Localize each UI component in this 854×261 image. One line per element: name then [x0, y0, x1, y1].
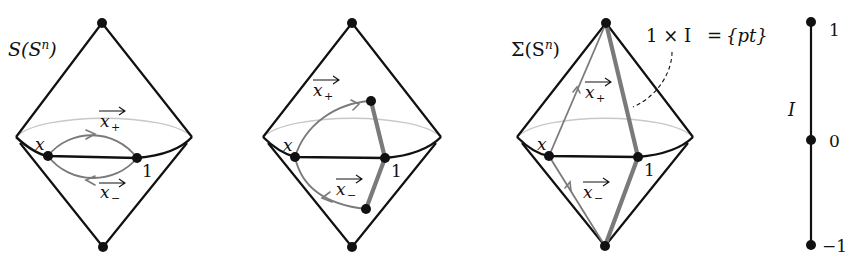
- interval-label: I: [787, 99, 796, 120]
- panel-suspension: S(Sn) x 1 x + x −: [8, 18, 192, 252]
- label-x-plus: x +: [585, 78, 611, 105]
- tick-label-mid: 0: [829, 131, 840, 151]
- svg-text:x: x: [585, 82, 595, 102]
- tick-dot-bottom: [806, 240, 816, 250]
- svg-text:+: +: [111, 121, 120, 134]
- tick-dot-top: [806, 17, 816, 27]
- point-one-dot: [633, 152, 643, 162]
- label-one: 1: [142, 161, 153, 181]
- panel-title: Σ(Sn): [511, 38, 560, 60]
- svg-text:−: −: [347, 189, 356, 202]
- svg-text:+: +: [324, 90, 333, 103]
- svg-text:x: x: [100, 111, 110, 131]
- label-x: x: [537, 134, 547, 154]
- svg-text:x: x: [313, 80, 323, 100]
- svg-text:{pt}: {pt}: [726, 25, 768, 46]
- south-pole-dot: [98, 242, 108, 252]
- upper-endpoint-dot: [366, 96, 376, 106]
- panel-title: S(Sn): [8, 38, 57, 60]
- panel-reduced-suspension: Σ(Sn) x 1 x + x − 1 × I = {pt}: [511, 18, 768, 251]
- interval-I: 1 0 −1 I: [787, 17, 847, 256]
- label-x-plus: x +: [99, 107, 125, 134]
- label-one: 1: [644, 160, 655, 180]
- label-x: x: [35, 134, 45, 154]
- label-x-minus: x −: [336, 175, 362, 202]
- lower-endpoint-dot: [361, 204, 371, 214]
- panel-homotopy: x 1 x + x −: [263, 18, 441, 252]
- point-one-dot: [132, 153, 142, 163]
- label-x-plus: x +: [313, 76, 339, 103]
- tick-label-bottom: −1: [822, 236, 847, 256]
- north-pole-dot: [347, 18, 357, 28]
- path-x-plus: [48, 135, 137, 158]
- svg-text:=: =: [707, 25, 722, 46]
- south-pole-dot: [347, 242, 357, 252]
- path-x-plus: [295, 101, 371, 157]
- segment-lower: [605, 157, 638, 246]
- svg-text:x: x: [336, 179, 346, 199]
- north-pole-dot: [601, 18, 611, 28]
- svg-text:1 × I: 1 × I: [646, 25, 691, 46]
- upper-cone-edges: [263, 23, 441, 137]
- label-x-minus: x −: [99, 179, 125, 205]
- label-one: 1: [391, 161, 402, 181]
- svg-text:−: −: [111, 192, 120, 205]
- south-pole-dot: [600, 241, 610, 251]
- svg-text:−: −: [594, 192, 603, 205]
- svg-text:x: x: [583, 182, 593, 202]
- point-one-dot: [380, 153, 390, 163]
- svg-text:+: +: [596, 92, 605, 105]
- suspension-figure: S(Sn) x 1 x + x −: [0, 0, 854, 261]
- annotation-collapse: 1 × I = {pt}: [633, 25, 768, 107]
- tick-dot-mid: [806, 135, 816, 145]
- segment-lower: [366, 158, 385, 209]
- label-x: x: [283, 135, 293, 155]
- label-x-minus: x −: [583, 178, 609, 205]
- north-pole-dot: [97, 18, 107, 28]
- segment-upper: [371, 101, 385, 158]
- arrow-right-icon: [351, 100, 359, 110]
- tick-label-top: 1: [829, 20, 840, 40]
- svg-text:x: x: [100, 182, 110, 202]
- dashed-pointer: [633, 52, 672, 107]
- path-x-minus: [48, 156, 137, 178]
